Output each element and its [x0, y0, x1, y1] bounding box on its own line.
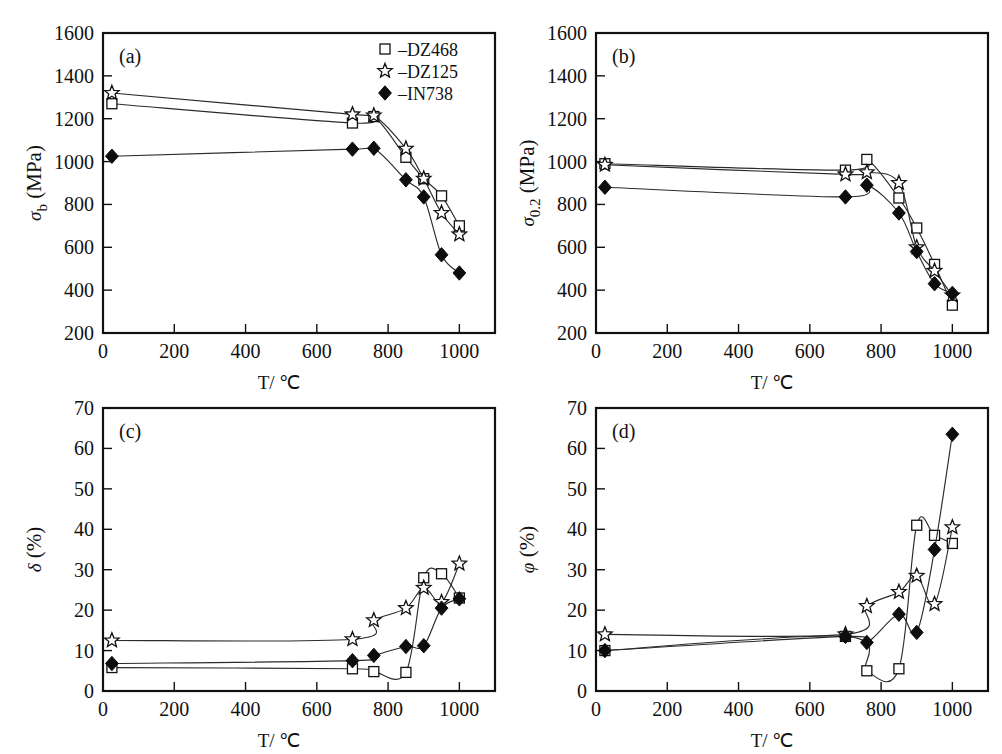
- y-tick-label-d: 10: [567, 640, 587, 662]
- data-point-dz125: [927, 596, 941, 610]
- x-tick-label-d: 600: [795, 698, 825, 720]
- data-point-dz468: [912, 520, 922, 530]
- data-point-dz125: [860, 599, 874, 613]
- y-tick-label-d: 0: [577, 680, 587, 702]
- series-markers-dz125: [598, 520, 960, 641]
- data-point-dz468: [894, 664, 904, 674]
- data-point-in738: [946, 427, 959, 441]
- y-tick-label-d: 30: [567, 559, 587, 581]
- y-tick-label-d: 40: [567, 518, 587, 540]
- y-axis-title-d: φ (%): [515, 526, 539, 573]
- data-point-in738: [893, 607, 906, 621]
- y-tick-label-d: 50: [567, 478, 587, 500]
- panel-letter-d: (d): [612, 420, 635, 443]
- data-point-in738: [910, 625, 923, 639]
- figure-canvas: 2004006008001000120014001600020040060080…: [0, 0, 1002, 754]
- data-point-dz125: [598, 627, 612, 641]
- data-point-in738: [928, 542, 941, 556]
- x-tick-label-d: 0: [591, 698, 601, 720]
- series-line-dz468: [605, 517, 952, 682]
- data-point-dz125: [945, 520, 959, 534]
- data-point-dz125: [892, 584, 906, 598]
- x-axis-title-d: T/ ℃: [751, 730, 794, 751]
- series-markers-in738: [599, 427, 959, 658]
- y-tick-label-d: 70: [567, 397, 587, 419]
- svg-text:φ (%): φ (%): [515, 526, 539, 573]
- x-tick-label-d: 400: [724, 698, 754, 720]
- data-point-dz468: [862, 666, 872, 676]
- x-tick-label-d: 200: [652, 698, 682, 720]
- x-tick-label-d: 1000: [932, 698, 972, 720]
- data-point-dz125: [910, 568, 924, 582]
- y-tick-label-d: 60: [567, 437, 587, 459]
- data-point-in738: [860, 635, 873, 649]
- x-tick-label-d: 800: [866, 698, 896, 720]
- y-tick-label-d: 20: [567, 599, 587, 621]
